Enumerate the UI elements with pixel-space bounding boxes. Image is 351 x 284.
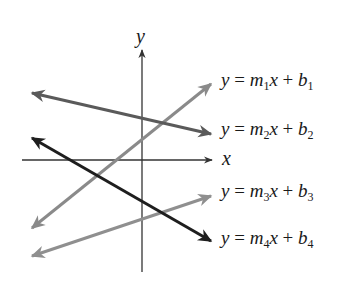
equation-line-3: y = m3x + b3 <box>221 181 314 203</box>
equation-line-4: y = m4x + b4 <box>221 228 314 250</box>
y-axis-label: y <box>136 26 145 46</box>
x-axis-label: x <box>222 148 231 168</box>
equation-line-2: y = m2x + b2 <box>221 119 314 141</box>
equation-line-1: y = m1x + b1 <box>221 70 314 92</box>
line-2 <box>32 93 211 134</box>
